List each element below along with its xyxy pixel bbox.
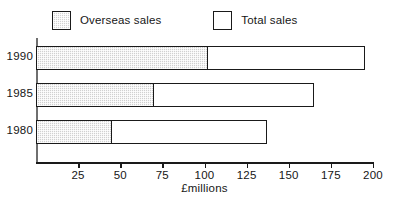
sales-bar-chart: Overseas sales Total sales 1990 1985 198… xyxy=(0,0,394,203)
y-axis-tick-labels: 1990 1985 1980 xyxy=(0,38,33,162)
x-tick-label-200: 200 xyxy=(363,169,383,181)
x-axis-title: £millions xyxy=(36,182,373,194)
x-tick-mark-150 xyxy=(289,162,290,168)
y-tick-label-1985: 1985 xyxy=(0,87,33,99)
x-tick-label-175: 175 xyxy=(321,169,341,181)
x-tick-label-75: 75 xyxy=(156,169,169,181)
x-tick-mark-125 xyxy=(247,162,248,168)
x-tick-mark-175 xyxy=(331,162,332,168)
legend-label-total-sales: Total sales xyxy=(241,14,297,26)
x-tick-mark-50 xyxy=(120,162,121,168)
x-tick-label-100: 100 xyxy=(195,169,215,181)
x-tick-mark-75 xyxy=(162,162,163,168)
open-square-icon xyxy=(213,11,232,30)
x-tick-mark-200 xyxy=(373,162,374,168)
x-tick-mark-25 xyxy=(78,162,79,168)
x-tick-label-125: 125 xyxy=(237,169,257,181)
x-tick-label-150: 150 xyxy=(279,169,299,181)
legend-item-overseas-sales: Overseas sales xyxy=(52,11,161,30)
x-tick-label-25: 25 xyxy=(72,169,85,181)
y-tick-label-1990: 1990 xyxy=(0,50,33,62)
y-tick-label-1980: 1980 xyxy=(0,124,33,136)
plot-area xyxy=(36,38,373,162)
x-tick-mark-100 xyxy=(205,162,206,168)
bar-overseas-sales-1990 xyxy=(36,46,208,70)
bar-overseas-sales-1985 xyxy=(36,83,154,107)
legend-label-overseas-sales: Overseas sales xyxy=(80,14,161,26)
chart-legend: Overseas sales Total sales xyxy=(52,9,297,31)
shaded-square-icon xyxy=(52,11,71,30)
x-tick-label-50: 50 xyxy=(114,169,127,181)
bar-overseas-sales-1980 xyxy=(36,120,112,144)
legend-item-total-sales: Total sales xyxy=(213,11,297,30)
